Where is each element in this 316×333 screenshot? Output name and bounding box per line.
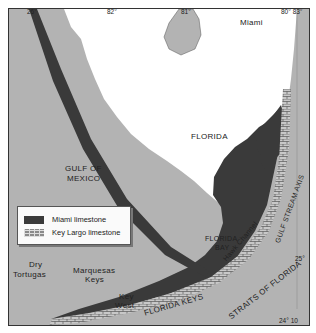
tick-81: 81° bbox=[181, 8, 191, 15]
legend-label: Key Largo limestone bbox=[52, 228, 120, 237]
key-largo-limestone-swatch bbox=[24, 229, 44, 237]
label-west: West bbox=[115, 301, 134, 310]
legend-item-miami: Miami limestone bbox=[24, 215, 106, 224]
label-gulf-of: GULF OF bbox=[65, 164, 102, 173]
legend-label: Miami limestone bbox=[52, 215, 106, 224]
tick-26: 26° bbox=[27, 8, 37, 15]
label-dry: Dry bbox=[29, 260, 42, 269]
tick-24: 24° 10 bbox=[279, 317, 298, 324]
label-miami: Miami bbox=[240, 18, 263, 27]
label-marquesas: Marquesas bbox=[73, 266, 115, 275]
label-keys: Keys bbox=[85, 275, 104, 284]
map-frame: 26° 82° 81° 80° 83° 25° 24° 10 Miami FLO… bbox=[8, 8, 310, 326]
legend-item-key-largo: Key Largo limestone bbox=[24, 228, 120, 237]
tick-80: 80° 83° bbox=[281, 8, 302, 15]
map-legend: Miami limestone Key Largo limestone bbox=[17, 206, 131, 245]
tick-82: 82° bbox=[107, 8, 117, 15]
label-key: Key bbox=[119, 292, 134, 301]
label-tortugas: Tortugas bbox=[13, 270, 46, 279]
map-graphic bbox=[9, 9, 310, 326]
miami-limestone-swatch bbox=[24, 216, 44, 224]
label-mexico: MEXICO bbox=[67, 174, 100, 183]
label-florida: FLORIDA bbox=[191, 132, 228, 141]
